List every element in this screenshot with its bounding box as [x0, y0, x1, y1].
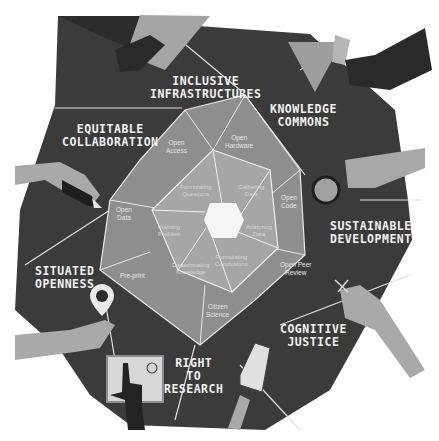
principle-label-line: DEVELOPMENT [330, 233, 412, 246]
stage-analyzing-data: Analyzing Data [246, 224, 272, 238]
practice-label-line: Citizen [206, 303, 229, 311]
practice-open-data: Open Data [116, 206, 132, 221]
practice-label-line: Open [116, 206, 132, 214]
practice-open-code: Open Code [281, 194, 297, 209]
principle-cognitive-justice: COGNITIVE JUSTICE [280, 323, 347, 349]
stage-label-line: Formulating [180, 184, 212, 191]
principle-label-line: COLLABORATION [62, 136, 159, 149]
practice-label-line: Review [280, 269, 311, 277]
practice-label-line: Science [206, 311, 229, 319]
stage-label-line: Problem [158, 231, 180, 238]
stage-label-line: Questions [180, 191, 212, 198]
principle-label-line: OPENNESS [35, 278, 94, 291]
principle-label-line: JUSTICE [280, 336, 347, 349]
practice-open-hardware: Open Hardware [225, 134, 253, 149]
stage-label-line: Knowledge [172, 269, 210, 276]
stage-disseminating-knowledge: Disseminating Knowledge [172, 262, 210, 276]
stage-label-line: Formulating [215, 254, 248, 261]
stage-label-line: Framing [158, 224, 180, 231]
stage-label-line: Analyzing [246, 224, 272, 231]
practice-open-peer-review: Open Peer Review [280, 261, 311, 276]
practice-label-line: Open [281, 194, 297, 202]
practice-citizen-science: Citizen Science [206, 303, 229, 318]
stage-formulating-questions: Formulating Questions [180, 184, 212, 198]
stage-framing-problem: Framing Problem [158, 224, 180, 238]
principle-situated-openness: SITUATED OPENNESS [35, 265, 94, 291]
stage-label-line: Data [246, 231, 272, 238]
principle-knowledge-commons: KNOWLEDGE COMMONS [270, 103, 337, 129]
practice-label-line: Hardware [225, 142, 253, 150]
stage-label-line: Disseminating [172, 262, 210, 269]
stage-label-line: Conclusions [215, 261, 248, 268]
stage-gathering-data: Gathering Data [238, 184, 264, 198]
principle-sustainable-development: SUSTAINABLE DEVELOPMENT [330, 220, 412, 246]
principle-right-to-research: RIGHT TO RESEARCH [164, 357, 223, 396]
practice-pre-print: Pre-print [120, 272, 145, 280]
practice-label-line: Data [116, 214, 132, 222]
practice-label-line: Open [225, 134, 253, 142]
stage-formulating-conclusions: Formulating Conclusions [215, 254, 248, 268]
principle-equitable-collaboration: EQUITABLE COLLABORATION [62, 123, 159, 149]
practice-label-line: Code [281, 202, 297, 210]
principle-label-line: COMMONS [270, 116, 337, 129]
stage-label-line: Data [238, 191, 264, 198]
principle-label-line: RESEARCH [164, 383, 223, 396]
stage-label-line: Gathering [238, 184, 264, 191]
practice-label-line: Open Peer [280, 261, 311, 269]
practice-open-access: Open Access [166, 139, 187, 154]
practice-label-line: Pre-print [120, 272, 145, 280]
principle-label-line: INFRASTRUCTURES [150, 88, 261, 101]
center-hexagon [204, 203, 244, 238]
principle-inclusive-infrastructures: INCLUSIVE INFRASTRUCTURES [150, 75, 261, 101]
practice-label-line: Open [166, 139, 187, 147]
practice-label-line: Access [166, 147, 187, 155]
